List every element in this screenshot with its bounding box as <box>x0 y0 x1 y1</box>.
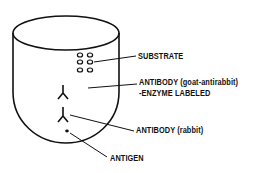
antigen-dot-icon <box>65 130 69 133</box>
substrate-label: SUBSTRATE <box>138 51 183 61</box>
antigen-label: ANTIGEN <box>110 153 144 163</box>
secondary-antibody-label: ANTIBODY (goat-antirabbit) <box>139 77 238 87</box>
substrate-leader-line <box>94 56 136 62</box>
primary-antibody-label: ANTIBODY (rabbit) <box>136 125 203 135</box>
primary-antibody-icon <box>58 107 68 122</box>
secondary-antibody-leader-line <box>88 84 137 88</box>
enzyme-labeled-label: -ENZYME LABELED <box>139 88 210 98</box>
substrate-molecules-icon <box>77 53 92 72</box>
secondary-antibody-icon <box>58 85 68 99</box>
antigen-leader-line <box>70 133 107 157</box>
well-rim <box>13 16 119 50</box>
